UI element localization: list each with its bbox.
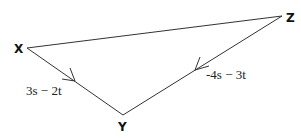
edge-label-x-y: 3s − 2t: [26, 83, 62, 98]
vector-triangle-diagram: X Y Z 3s − 2t -4s − 3t: [0, 0, 301, 138]
edge-x-z: [27, 16, 282, 48]
vertex-label-z: Z: [286, 11, 295, 25]
vertex-label-x: X: [14, 42, 24, 56]
vertex-label-y: Y: [117, 120, 127, 134]
arrow-x-to-y-icon: [62, 68, 75, 81]
edge-label-z-y: -4s − 3t: [206, 67, 246, 82]
edge-z-y: [123, 16, 282, 115]
